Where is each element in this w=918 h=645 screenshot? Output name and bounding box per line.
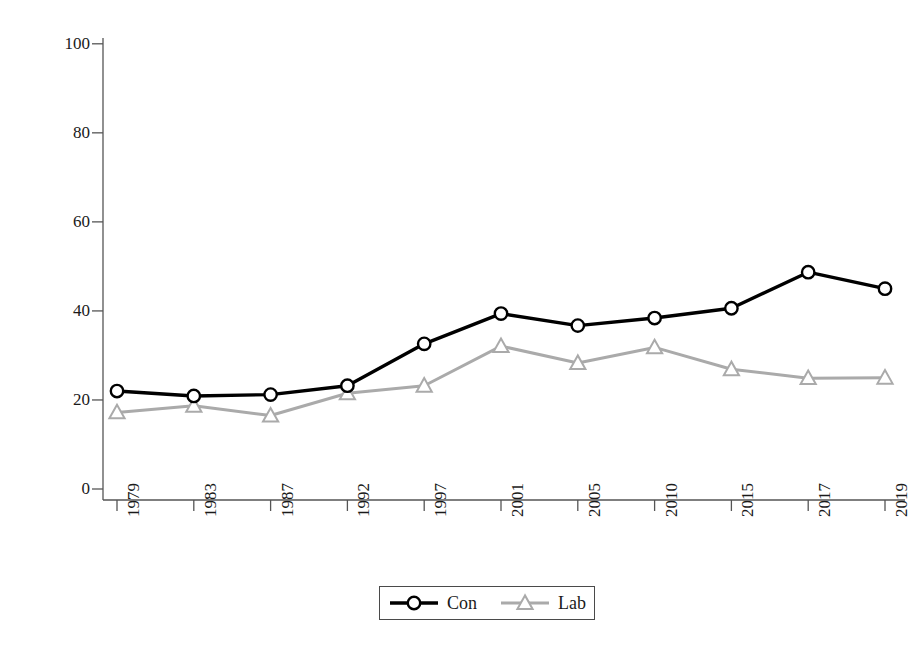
data-point-marker-circle: [188, 390, 200, 402]
legend-entry-lab[interactable]: Lab: [499, 593, 586, 613]
plot-area: [0, 0, 918, 645]
data-point-marker-circle: [264, 388, 276, 400]
chart-legend[interactable]: ConLab: [379, 586, 595, 620]
legend-label: Lab: [558, 594, 586, 612]
legend-swatch-circle-icon: [388, 593, 440, 613]
data-point-marker-circle: [572, 319, 584, 331]
data-point-marker-triangle: [647, 340, 662, 354]
legend-label: Con: [447, 594, 477, 612]
data-point-marker-circle: [725, 302, 737, 314]
data-series: [109, 266, 892, 421]
legend-swatch-triangle-icon: [499, 593, 551, 613]
series-line-con: [117, 272, 885, 396]
series-line-lab: [117, 346, 885, 415]
data-point-marker-circle: [802, 266, 814, 278]
series-con: [111, 266, 891, 402]
data-point-marker-circle: [648, 312, 660, 324]
data-point-marker-circle: [879, 282, 891, 294]
data-point-marker-triangle: [493, 338, 508, 352]
data-point-marker-circle: [111, 385, 123, 397]
chart-container: As a proportion of party's vote (%) 0204…: [0, 0, 918, 645]
data-point-marker-circle: [341, 380, 353, 392]
data-point-marker-circle: [408, 597, 420, 609]
data-point-marker-circle: [495, 307, 507, 319]
data-point-marker-circle: [418, 338, 430, 350]
axes: [92, 38, 905, 511]
series-lab: [109, 338, 892, 421]
legend-entry-con[interactable]: Con: [388, 593, 477, 613]
